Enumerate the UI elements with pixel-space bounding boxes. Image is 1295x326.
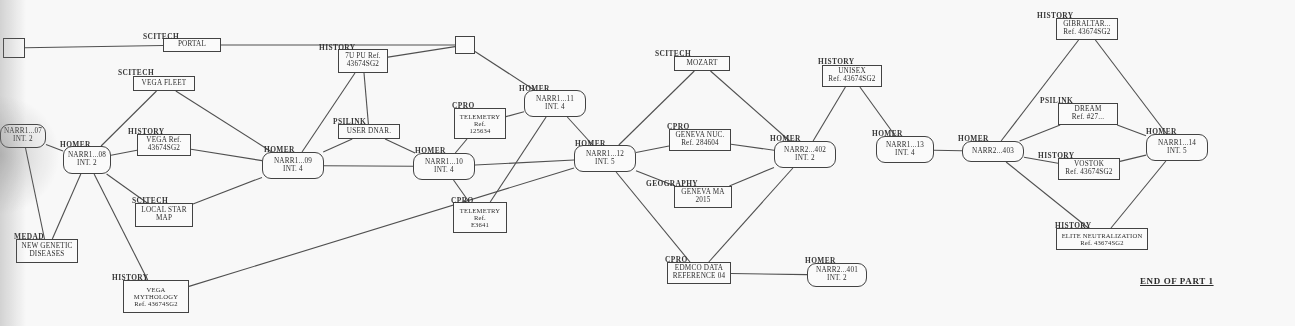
node-narr401[interactable]: NARR2...401INT. 2: [807, 263, 867, 287]
node-vostok[interactable]: VOSTOKRef. 43674SG2: [1058, 158, 1120, 180]
node-edmco[interactable]: EDMCO DATAREFERENCE 04: [667, 262, 731, 284]
edge-vegaref-to-narr09: [191, 149, 262, 160]
node-label-line: INT. 2: [795, 155, 815, 163]
node-unisex[interactable]: UNISEXRef. 43674SG2: [822, 65, 882, 87]
category-label: MEDAD: [14, 232, 44, 241]
node-junction[interactable]: [455, 36, 475, 54]
category-label: HOMER: [770, 134, 801, 143]
node-label-line: USER DNAR.: [347, 128, 391, 136]
edge-narr09-to-narr10: [324, 166, 413, 167]
node-label-line: MAP: [156, 215, 172, 223]
category-label: HOMER: [60, 140, 91, 149]
edge-telem12-to-narr11: [506, 112, 524, 117]
node-label-line: Ref. #27...: [1072, 114, 1104, 122]
edge-genevanuc-to-narr402: [731, 144, 774, 150]
edge-narr12-to-genevanuc: [636, 146, 669, 153]
node-narr10[interactable]: NARR1...10INT. 4: [413, 153, 475, 180]
node-label-line: INT. 4: [434, 167, 454, 175]
node-label-line: Ref. 284604: [681, 140, 719, 148]
edge-narr10-to-narr12: [475, 160, 574, 165]
category-label: HISTORY: [1038, 151, 1075, 160]
diagram-canvas: PORTAL7U PU Ref.43674SG2VEGA FLEETNARR1.…: [0, 0, 1295, 326]
edge-userdnar-to-narr10: [385, 139, 415, 153]
edge-narr402-to-edmco: [709, 168, 793, 262]
node-label-line: INT. 4: [545, 104, 565, 112]
node-label-line: INT. 2: [13, 136, 33, 144]
category-label: CPRO: [452, 101, 475, 110]
category-label: HOMER: [519, 84, 550, 93]
category-label: HISTORY: [319, 43, 356, 52]
node-label-line: 2015: [695, 197, 710, 205]
category-label: HOMER: [1146, 127, 1177, 136]
edge-narr09-to-userdnar: [323, 139, 352, 152]
node-label-line: MYTHOLOGY: [134, 293, 178, 300]
edge-7upu-to-narr09: [302, 73, 355, 152]
category-label: HOMER: [805, 256, 836, 265]
node-label-line: E3641: [471, 221, 489, 228]
edge-narr13-to-narr403: [934, 150, 962, 151]
node-label-line: INT. 2: [77, 160, 97, 168]
node-narr403[interactable]: NARR2...403: [962, 141, 1024, 162]
node-start[interactable]: [3, 38, 25, 58]
category-label: HISTORY: [1055, 221, 1092, 230]
node-mozart[interactable]: MOZART: [674, 56, 730, 71]
node-label-line: 43674SG2: [347, 61, 379, 69]
edge-narr403-to-dream: [1020, 125, 1061, 141]
node-elite[interactable]: ELITE NEUTRALIZATIONRef. 43674SG2: [1056, 228, 1148, 250]
category-label: HISTORY: [1037, 11, 1074, 20]
node-narr11[interactable]: NARR1...11INT. 4: [524, 90, 586, 117]
edge-dream-to-narr14: [1117, 125, 1146, 136]
edge-start-to-portal: [25, 46, 163, 48]
node-genetic[interactable]: NEW GENETICDISEASES: [16, 239, 78, 263]
edge-narr403-to-gibraltar: [1001, 40, 1079, 141]
node-label-line: INT. 4: [895, 150, 915, 158]
category-label: HOMER: [575, 139, 606, 148]
edge-edmco-to-narr401: [731, 274, 807, 275]
node-localstar[interactable]: LOCAL STARMAP: [135, 203, 193, 227]
edge-genevama-to-narr402: [729, 167, 774, 186]
node-label-line: TELEMETRY: [460, 207, 501, 214]
node-label-line: DISEASES: [29, 251, 64, 259]
node-narr12[interactable]: NARR1...12INT. 5: [574, 145, 636, 172]
edge-junction-to-7upu: [388, 47, 455, 58]
category-label: PSILINK: [1040, 96, 1073, 105]
node-dream[interactable]: DREAMRef. #27...: [1058, 103, 1118, 125]
node-narr13[interactable]: NARR1...13INT. 4: [876, 136, 934, 163]
category-label: GEOGRAPHY: [646, 179, 698, 188]
node-narr09[interactable]: NARR1...09INT. 4: [262, 152, 324, 179]
edge-narr10-to-telem12: [455, 139, 467, 153]
category-label: CPRO: [451, 196, 474, 205]
node-homer08[interactable]: NARR1...08INT. 2: [63, 146, 111, 174]
node-label-line: Ref. 43674SG2: [1065, 169, 1112, 177]
node-label-line: 43674SG2: [148, 145, 180, 153]
node-vegaref[interactable]: VEGA Ref.43674SG2: [137, 134, 191, 156]
category-label: PSILINK: [333, 117, 366, 126]
node-7upu[interactable]: 7U PU Ref.43674SG2: [338, 49, 388, 73]
node-telem12[interactable]: TELEMETRYRef.125634: [454, 108, 506, 139]
node-vegamyth[interactable]: VEGAMYTHOLOGYRef. 43674SG2: [123, 280, 189, 313]
node-label-line: VEGA: [146, 286, 165, 293]
node-userdnar[interactable]: USER DNAR.: [338, 124, 400, 139]
end-of-part-label: END OF PART 1: [1140, 276, 1214, 286]
node-narr14[interactable]: NARR1...14INT. 5: [1146, 134, 1208, 161]
node-genevanuc[interactable]: GENEVA NUC.Ref. 284604: [669, 129, 731, 151]
node-narr07[interactable]: NARR1...07INT. 2: [0, 124, 46, 148]
node-narr402[interactable]: NARR2...402INT. 2: [774, 141, 836, 168]
node-label-line: INT. 5: [595, 159, 615, 167]
category-label: SCITECH: [118, 68, 154, 77]
edge-homer08-to-vegaref: [111, 150, 137, 155]
node-gibraltar[interactable]: GIBRALTAR...Ref. 43674SG2: [1056, 18, 1118, 40]
node-genevama[interactable]: GENEVA MA2015: [674, 186, 732, 208]
node-label-line: INT. 5: [1167, 148, 1187, 156]
node-telemE3[interactable]: TELEMETRYRef.E3641: [453, 202, 507, 233]
node-label-line: PORTAL: [178, 41, 206, 49]
node-label-line: Ref.: [474, 214, 486, 221]
edge-vostok-to-narr14: [1120, 155, 1146, 161]
node-vegafleet[interactable]: VEGA FLEET: [133, 76, 195, 91]
category-label: HOMER: [264, 145, 295, 154]
category-label: CPRO: [667, 122, 690, 131]
category-label: SCITECH: [143, 32, 179, 41]
category-label: CPRO: [665, 255, 688, 264]
node-label-line: Ref. 43674SG2: [1080, 239, 1124, 246]
category-label: HOMER: [958, 134, 989, 143]
